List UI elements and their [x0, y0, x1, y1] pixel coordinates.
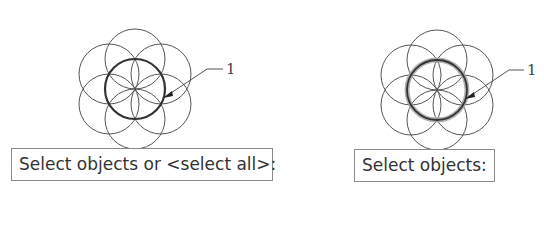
callout-leader [465, 70, 524, 99]
command-prompt-select-objects: Select objects: [354, 149, 495, 182]
callout-number: 1 [527, 61, 537, 79]
